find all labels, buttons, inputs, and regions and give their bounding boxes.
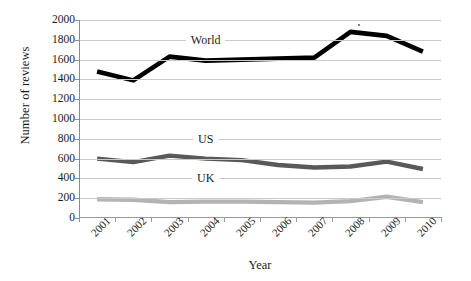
y-tick-label: 200 [35, 192, 75, 204]
plot-area: WorldUSUK [79, 20, 441, 218]
x-tick-label: 2007 [307, 215, 330, 238]
gridline [79, 139, 441, 140]
gridline [79, 178, 441, 179]
gridline [79, 40, 441, 41]
y-tick-label: 0 [35, 212, 75, 224]
y-tick-mark [75, 159, 80, 160]
gridline [79, 60, 441, 61]
y-tick-label: 1800 [35, 34, 75, 46]
x-tick-label: 2004 [198, 215, 221, 238]
x-tick-label: 2002 [126, 215, 149, 238]
series-annotation-world: World [186, 33, 226, 47]
x-axis-title: Year [79, 258, 441, 273]
y-tick-label: 800 [35, 133, 75, 145]
x-tick-label: 2008 [343, 215, 366, 238]
y-tick-mark [75, 119, 80, 120]
y-tick-mark [75, 40, 80, 41]
x-tick-label: 2005 [234, 215, 257, 238]
y-tick-mark [75, 178, 80, 179]
y-tick-mark [75, 99, 80, 100]
gridline [79, 119, 441, 120]
stray-dot-artifact [358, 24, 360, 26]
y-tick-mark [75, 20, 80, 21]
gridline [79, 99, 441, 100]
y-tick-label: 400 [35, 173, 75, 185]
series-annotation-uk: UK [192, 171, 219, 185]
y-tick-mark [75, 198, 80, 199]
series-annotation-us: US [193, 132, 218, 146]
y-tick-mark [75, 60, 80, 61]
x-axis-tick-labels: 2001200220032004200520062007200820092010 [79, 221, 441, 261]
x-tick-label: 2001 [89, 215, 112, 238]
y-tick-mark [75, 139, 80, 140]
x-tick-mark [441, 217, 442, 222]
x-tick-label: 2009 [379, 215, 402, 238]
y-axis-tick-labels: 0200400600800100012001400160018002000 [33, 0, 75, 281]
x-tick-label: 2006 [270, 215, 293, 238]
x-tick-label: 2010 [415, 215, 438, 238]
y-tick-label: 1000 [35, 113, 75, 125]
x-tick-label: 2003 [162, 215, 185, 238]
y-tick-label: 600 [35, 153, 75, 165]
y-tick-label: 1200 [35, 93, 75, 105]
y-tick-mark [75, 79, 80, 80]
line-chart: Number of reviews 0200400600800100012001… [0, 0, 471, 281]
gridline [79, 79, 441, 80]
gridline [79, 20, 441, 21]
y-tick-label: 1400 [35, 74, 75, 86]
gridline [79, 198, 441, 199]
y-tick-label: 2000 [35, 14, 75, 26]
gridline [79, 159, 441, 160]
y-tick-label: 1600 [35, 54, 75, 66]
y-axis-title: Number of reviews [18, 16, 33, 176]
